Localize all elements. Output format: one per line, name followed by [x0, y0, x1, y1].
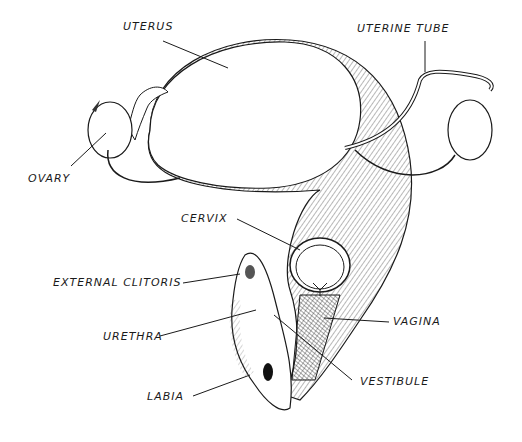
label-uterine-tube: UTERINE TUBE [357, 22, 450, 35]
label-cervix: CERVIX [181, 212, 228, 225]
vulva-shape [232, 253, 292, 410]
label-ovary: OVARY [28, 172, 70, 185]
label-urethra: URETHRA [103, 330, 163, 343]
reproductive-system-illustration [0, 0, 522, 442]
label-external-clitoris: EXTERNAL CLITORIS [53, 276, 181, 289]
label-uterus: UTERUS [123, 20, 173, 33]
label-labia: LABIA [147, 390, 184, 403]
label-vestibule: VESTIBULE [360, 375, 429, 388]
anatomy-diagram: UTERUS UTERINE TUBE OVARY CERVIX EXTERNA… [0, 0, 522, 442]
label-vagina: VAGINA [393, 315, 441, 328]
